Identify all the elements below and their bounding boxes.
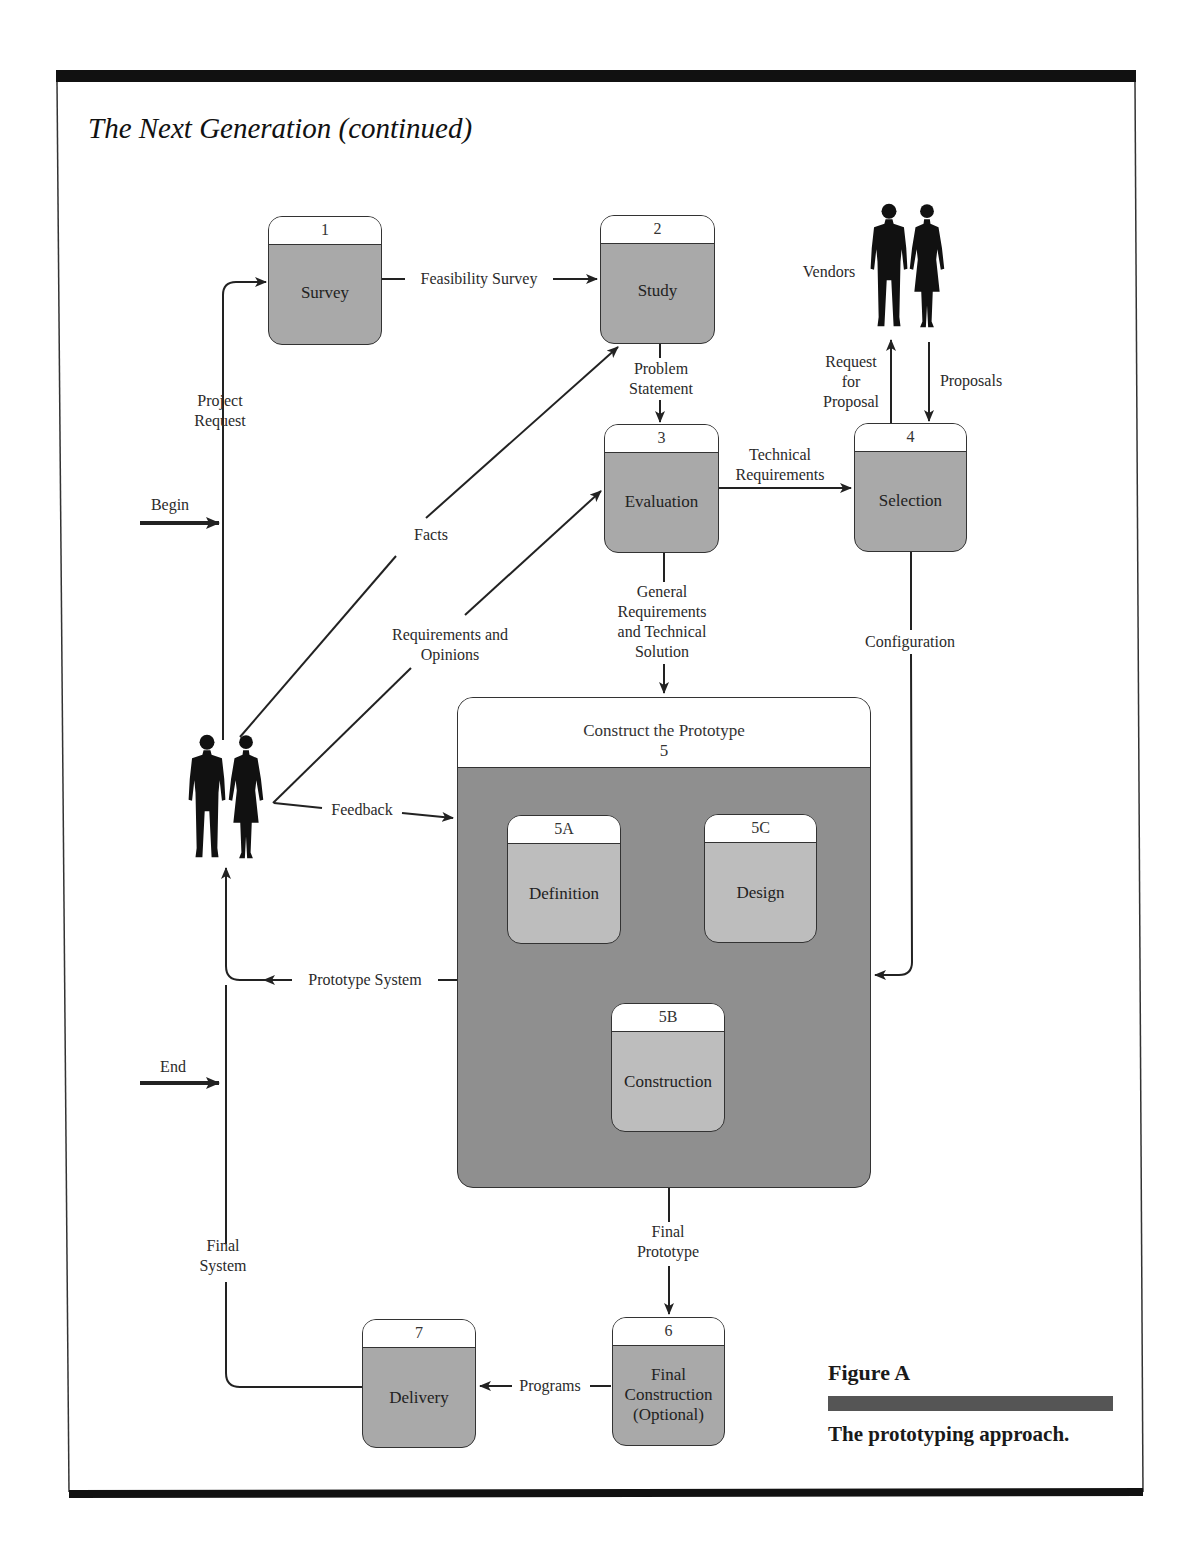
figure-caption: The prototyping approach. <box>828 1422 1069 1447</box>
page-title: The Next Generation (continued) <box>88 112 472 145</box>
figure-label: Figure A <box>828 1360 910 1386</box>
process-number: 5 <box>458 741 870 761</box>
process-name: Construct the Prototype <box>458 721 870 741</box>
process-number: 2 <box>601 216 714 244</box>
users-icon <box>189 735 264 859</box>
process-number: 1 <box>269 217 381 245</box>
request-for-proposal-label: RequestforProposal <box>823 352 879 412</box>
final-system-label: FinalSystem <box>199 1236 246 1276</box>
configuration-label: Configuration <box>865 632 955 652</box>
requirements-opinions-label: Requirements andOpinions <box>392 625 508 665</box>
process-name: Definition <box>508 884 620 904</box>
general-requirements-label: GeneralRequirementsand TechnicalSolution <box>618 582 707 662</box>
process-number: 7 <box>363 1320 475 1348</box>
begin-label: Begin <box>151 495 189 515</box>
technical-requirements-label: TechnicalRequirements <box>736 445 825 485</box>
subprocess-construction: 5B Construction <box>611 1003 725 1132</box>
programs-label: Programs <box>519 1376 580 1396</box>
process-name: Evaluation <box>605 492 718 512</box>
process-name: Delivery <box>363 1388 475 1408</box>
process-number: 6 <box>613 1318 724 1346</box>
process-number: 5B <box>612 1004 724 1032</box>
process-number: 5A <box>508 816 620 844</box>
caption-divider <box>828 1396 1113 1411</box>
facts-label: Facts <box>414 525 448 545</box>
project-request-label: ProjectRequest <box>194 391 246 431</box>
prototype-system-label: Prototype System <box>308 970 421 990</box>
process-number: 5C <box>705 815 816 843</box>
process-name: Survey <box>269 283 381 303</box>
process-study: 2 Study <box>600 215 715 344</box>
vendors-icon <box>871 204 945 328</box>
process-name: Construction <box>612 1072 724 1092</box>
process-evaluation: 3 Evaluation <box>604 424 719 553</box>
feasibility-survey-label: Feasibility Survey <box>421 269 538 289</box>
process-number: 4 <box>855 424 966 452</box>
process-name: Final Construction (Optional) <box>613 1365 724 1425</box>
process-selection: 4 Selection <box>854 423 967 552</box>
vendors-label: Vendors <box>803 262 855 282</box>
process-number: 3 <box>605 425 718 453</box>
problem-statement-label: ProblemStatement <box>629 359 693 399</box>
end-label: End <box>160 1057 186 1077</box>
process-name: Design <box>705 883 816 903</box>
process-name: Study <box>601 281 714 301</box>
process-delivery: 7 Delivery <box>362 1319 476 1448</box>
subprocess-design: 5C Design <box>704 814 817 943</box>
process-name: Selection <box>855 491 966 511</box>
proposals-label: Proposals <box>940 371 1002 391</box>
process-survey: 1 Survey <box>268 216 382 345</box>
subprocess-definition: 5A Definition <box>507 815 621 944</box>
feedback-label: Feedback <box>331 800 392 820</box>
process-final-construction: 6 Final Construction (Optional) <box>612 1317 725 1446</box>
final-prototype-label: FinalPrototype <box>637 1222 699 1262</box>
